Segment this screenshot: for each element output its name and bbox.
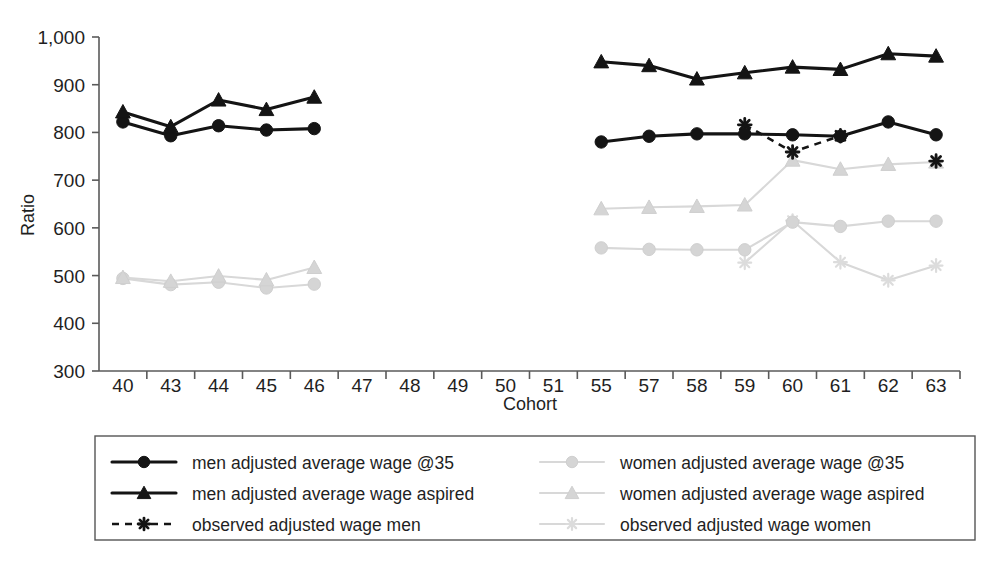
x-tick-label: 50 <box>495 375 516 396</box>
legend-label: men adjusted average wage @35 <box>192 453 454 473</box>
x-axis-title: Cohort <box>503 394 557 414</box>
x-tick-label: 61 <box>830 375 851 396</box>
y-tick-label: 500 <box>53 266 85 287</box>
y-axis-ticks: 3004005006007008009001,000 <box>37 27 99 382</box>
chart-figure: 3004005006007008009001,000 4043444546474… <box>0 0 999 567</box>
x-tick-label: 40 <box>112 375 133 396</box>
legend-label: women adjusted average wage @35 <box>619 453 904 473</box>
x-tick-label: 51 <box>543 375 564 396</box>
series-2 <box>116 46 944 132</box>
x-tick-label: 43 <box>160 375 181 396</box>
x-tick-label: 57 <box>639 375 660 396</box>
x-tick-label: 58 <box>686 375 707 396</box>
y-tick-label: 400 <box>53 313 85 334</box>
x-tick-label: 47 <box>352 375 373 396</box>
chart-axes <box>99 37 960 371</box>
y-axis-title: Ratio <box>18 194 38 236</box>
x-tick-label: 45 <box>256 375 277 396</box>
series-5 <box>116 153 944 288</box>
x-tick-label: 46 <box>304 375 325 396</box>
series-4 <box>117 215 943 294</box>
x-tick-label: 55 <box>591 375 612 396</box>
x-tick-label: 48 <box>399 375 420 396</box>
y-tick-label: 300 <box>53 361 85 382</box>
x-tick-label: 59 <box>734 375 755 396</box>
x-tick-label: 60 <box>782 375 803 396</box>
x-axis-ticks: 404344454647484950515557585960616263 <box>112 371 960 396</box>
y-tick-label: 700 <box>53 170 85 191</box>
x-tick-label: 62 <box>878 375 899 396</box>
legend-label: observed adjusted wage women <box>620 515 871 535</box>
y-tick-label: 600 <box>53 218 85 239</box>
y-tick-label: 1,000 <box>37 27 85 48</box>
y-tick-label: 800 <box>53 122 85 143</box>
x-tick-label: 49 <box>447 375 468 396</box>
chart-series-layer <box>116 46 944 294</box>
x-tick-label: 44 <box>208 375 230 396</box>
x-tick-label: 63 <box>926 375 947 396</box>
line-chart-canvas: 3004005006007008009001,000 4043444546474… <box>0 0 999 567</box>
y-tick-label: 900 <box>53 75 85 96</box>
legend-label: women adjusted average wage aspired <box>619 484 925 504</box>
legend-label: observed adjusted wage men <box>192 515 421 535</box>
legend-label: men adjusted average wage aspired <box>192 484 474 504</box>
